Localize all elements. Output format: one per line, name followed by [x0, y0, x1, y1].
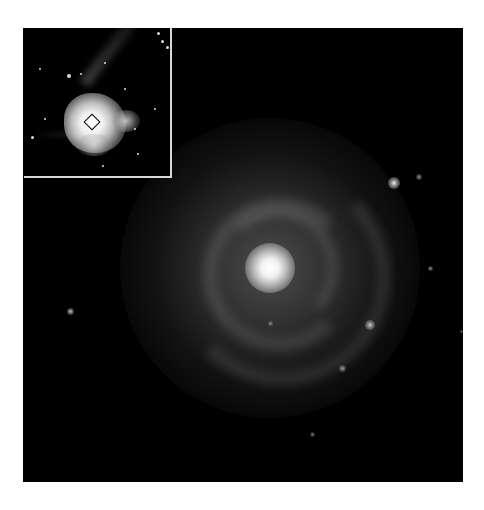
star [161, 40, 164, 43]
inset-jet [79, 28, 144, 88]
star [166, 46, 169, 49]
star [365, 320, 375, 330]
star [157, 32, 160, 35]
star [388, 177, 400, 189]
star [460, 330, 463, 333]
star [80, 73, 82, 75]
star [416, 174, 422, 180]
inset-lobe [76, 134, 112, 156]
star [339, 365, 346, 372]
galaxy-nucleus [245, 243, 295, 293]
star [134, 128, 136, 130]
star [428, 266, 433, 271]
star [310, 432, 315, 437]
star [137, 153, 139, 155]
star [31, 136, 34, 139]
inset-image [24, 28, 172, 178]
star [154, 108, 156, 110]
star [67, 308, 74, 315]
star [268, 321, 273, 326]
star [102, 165, 104, 167]
star [124, 88, 126, 90]
star [67, 74, 71, 78]
star [44, 118, 46, 120]
star [39, 68, 41, 70]
star [104, 62, 106, 64]
